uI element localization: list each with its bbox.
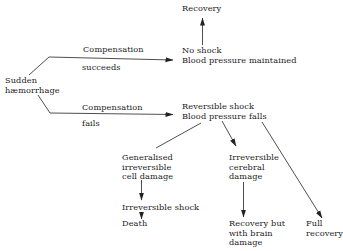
node-irreversible-shock: Irreversible shock <box>122 203 199 213</box>
node-recovery-brain-damage: Recovery but with brain damage <box>229 219 285 248</box>
edge-label-compensation-succeeds-2: succeeds <box>82 63 121 73</box>
node-no-shock: No shock Blood pressure maintained <box>182 46 297 65</box>
edge-to-cell-damage <box>156 123 201 148</box>
node-reversible-shock: Reversible shock Blood pressure falls <box>182 102 267 121</box>
edge-to-cerebral-damage <box>222 121 236 146</box>
node-line: cell damage <box>122 172 173 182</box>
node-full-recovery: Full recovery <box>306 219 343 238</box>
node-line: recovery <box>306 229 343 239</box>
node-sudden-haemorrhage: Sudden hæmorrhage <box>5 76 60 95</box>
node-recovery: Recovery <box>182 4 221 14</box>
node-line: Blood pressure maintained <box>182 56 297 66</box>
node-line: hæmorrhage <box>5 86 60 96</box>
node-cell-damage: Generalised irreversible cell damage <box>122 153 173 182</box>
node-line: Blood pressure falls <box>182 112 267 122</box>
edge-label-compensation-succeeds-1: Compensation <box>83 45 144 55</box>
edge-label-compensation-fails-2: fails <box>82 119 100 129</box>
edge-label-compensation-fails-1: Compensation <box>82 103 143 113</box>
node-line: damage <box>229 172 279 182</box>
node-death: Death <box>122 219 147 229</box>
node-cerebral-damage: Irreversible cerebral damage <box>229 153 279 182</box>
node-line: damage <box>229 238 285 248</box>
